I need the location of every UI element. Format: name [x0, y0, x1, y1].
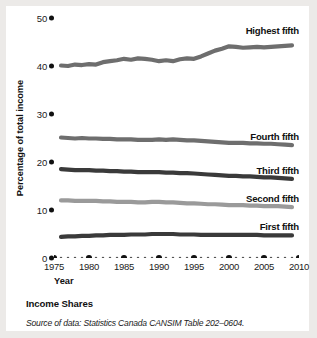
- x-axis-minor-dot: [186, 257, 189, 258]
- y-axis-tick-dot: [49, 16, 54, 21]
- y-axis-label: Percentage of total income: [14, 18, 26, 258]
- series-label-second-fifth: Second fifth: [246, 193, 299, 204]
- x-axis-tick-label: 1990: [149, 261, 169, 272]
- x-axis-minor-dot: [130, 257, 133, 258]
- x-axis-minor-dot: [207, 257, 210, 258]
- x-axis-minor-dot: [242, 257, 245, 258]
- x-axis-minor-dot: [95, 257, 98, 258]
- y-axis-tick: 50: [37, 13, 54, 24]
- x-axis-minor-dot: [221, 257, 224, 258]
- x-axis-tick-label: 2005: [254, 261, 274, 272]
- y-axis-tick-dot: [49, 112, 54, 117]
- series-label-first-fifth: First fifth: [260, 221, 299, 232]
- y-axis-tick-label: 20: [37, 157, 47, 168]
- x-axis-tick-label: 1980: [79, 261, 99, 272]
- x-axis-dotted-baseline: [54, 255, 299, 258]
- series-label-third-fifth: Third fifth: [256, 165, 299, 176]
- x-axis-minor-dot: [235, 257, 238, 258]
- x-axis-ticks: 19751980198519901995200020052010: [54, 261, 299, 275]
- y-axis-tick-label: 50: [37, 13, 47, 24]
- source-note: Source of data: Statistics Canada CANSIM…: [26, 318, 244, 328]
- y-axis-tick: 40: [37, 61, 54, 72]
- y-axis-tick-label: 10: [37, 205, 47, 216]
- chart-title: Income Shares: [26, 298, 93, 309]
- x-axis-tick-label: 2010: [289, 261, 309, 272]
- x-axis-major-dot: [191, 255, 197, 258]
- y-axis-tick: 30: [37, 109, 54, 120]
- x-axis-minor-dot: [67, 257, 70, 258]
- y-axis-tick-label: 40: [37, 61, 47, 72]
- x-axis-tick-label: 1975: [44, 261, 64, 272]
- x-axis-minor-dot: [151, 257, 154, 258]
- x-axis-major-dot: [86, 255, 92, 258]
- x-axis-tick-label: 1985: [114, 261, 134, 272]
- x-axis-tick-label: 1995: [184, 261, 204, 272]
- x-axis-minor-dot: [165, 257, 168, 258]
- series-label-highest-fifth: Highest fifth: [246, 25, 299, 36]
- x-axis-minor-dot: [214, 257, 217, 258]
- x-axis-minor-dot: [249, 257, 252, 258]
- x-axis-minor-dot: [277, 257, 280, 258]
- x-axis-major-dot: [296, 255, 299, 258]
- x-axis-minor-dot: [137, 257, 140, 258]
- series-line-first-fifth: [61, 234, 292, 237]
- x-axis-minor-dot: [200, 257, 203, 258]
- y-axis-tick-dot: [49, 160, 54, 165]
- x-axis-minor-dot: [256, 257, 259, 258]
- x-axis-minor-dot: [291, 257, 294, 258]
- y-axis-tick: 20: [37, 157, 54, 168]
- x-axis-major-dot: [156, 255, 162, 258]
- x-axis-major-dot: [261, 255, 267, 258]
- plot-area: 50403020100 Highest fifthFourth fifthThi…: [54, 18, 299, 258]
- x-axis-minor-dot: [102, 257, 105, 258]
- x-axis-major-dot: [226, 255, 232, 258]
- y-axis-tick: 10: [37, 205, 54, 216]
- x-axis-minor-dot: [179, 257, 182, 258]
- series-line-highest-fifth: [61, 45, 292, 66]
- figure-panel: Percentage of total income 50403020100 H…: [6, 6, 309, 331]
- y-axis-tick-dot: [49, 64, 54, 69]
- x-axis-minor-dot: [116, 257, 119, 258]
- y-axis-tick-dot: [49, 208, 54, 213]
- x-axis-minor-dot: [284, 257, 287, 258]
- figure-container: Percentage of total income 50403020100 H…: [0, 0, 317, 338]
- x-axis-major-dot: [54, 255, 57, 258]
- x-axis-major-dot: [121, 255, 127, 258]
- x-axis-minor-dot: [144, 257, 147, 258]
- y-axis-tick-label: 30: [37, 109, 47, 120]
- x-axis-minor-dot: [172, 257, 175, 258]
- x-axis-minor-dot: [74, 257, 77, 258]
- x-axis-tick-label: 2000: [219, 261, 239, 272]
- x-axis-label: Year: [54, 276, 74, 286]
- series-label-fourth-fifth: Fourth fifth: [250, 131, 299, 142]
- x-axis-minor-dot: [270, 257, 273, 258]
- x-axis-minor-dot: [81, 257, 84, 258]
- x-axis-minor-dot: [109, 257, 112, 258]
- x-axis-minor-dot: [60, 257, 63, 258]
